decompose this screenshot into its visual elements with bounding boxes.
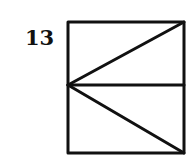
upper-diagonal-line xyxy=(68,22,184,85)
outer-square xyxy=(68,22,184,153)
lower-diagonal-line xyxy=(68,85,184,153)
figure-diagram xyxy=(0,0,196,167)
